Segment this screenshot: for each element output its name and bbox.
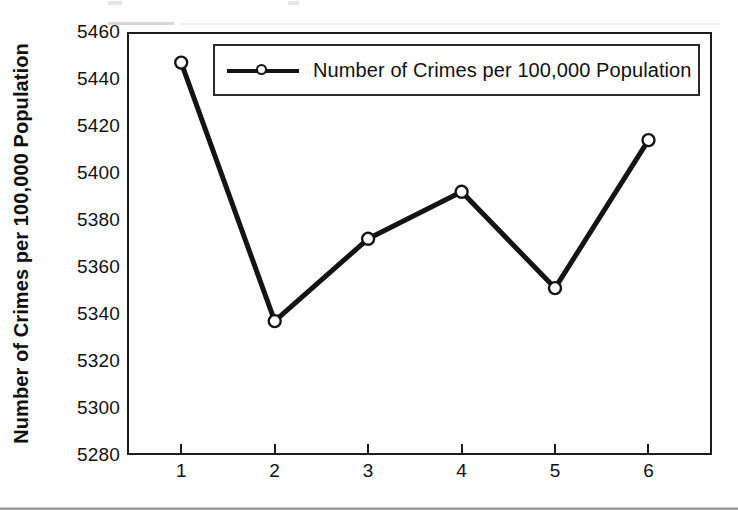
data-point-marker (456, 186, 468, 198)
data-point-marker (549, 282, 561, 294)
figure-canvas: Number of Crimes per 100,000 Population … (0, 0, 738, 518)
legend-line-marker-icon (227, 61, 299, 79)
data-point-marker (269, 315, 281, 327)
legend: Number of Crimes per 100,000 Population (213, 44, 700, 96)
page-bottom-rule (0, 507, 738, 510)
data-point-marker (643, 134, 655, 146)
legend-label: Number of Crimes per 100,000 Population (313, 59, 692, 82)
series-line (181, 63, 648, 322)
data-point-marker (175, 57, 187, 69)
data-point-marker (362, 233, 374, 245)
